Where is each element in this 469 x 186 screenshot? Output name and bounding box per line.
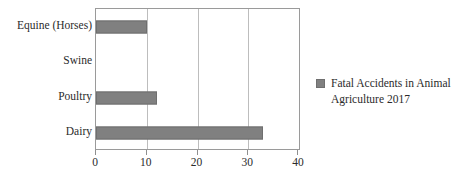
legend-entry-label: Fatal Accidents in Animal Agriculture 20… — [331, 76, 451, 107]
legend-swatch-icon — [316, 79, 325, 88]
x-tick-label-10: 10 — [140, 157, 152, 169]
x-tick-label-30: 30 — [242, 157, 254, 169]
bar-row-swine — [96, 45, 299, 81]
legend-label-line-1: Fatal Accidents in Animal — [331, 77, 451, 89]
x-tick-mark-10 — [146, 150, 147, 155]
bar-row-dairy — [96, 116, 299, 152]
x-tick-mark-40 — [297, 150, 298, 155]
bar-row-poultry — [96, 80, 299, 116]
y-axis-label-poultry: Poultry — [0, 91, 92, 103]
y-axis-label-swine: Swine — [0, 55, 92, 67]
y-axis-label-dairy: Dairy — [0, 126, 92, 138]
y-axis-labels: Equine (Horses) Swine Poultry Dairy — [0, 8, 92, 150]
x-axis: 0 10 20 30 40 — [95, 150, 300, 176]
bar-poultry — [96, 91, 157, 104]
legend-label-line-2: Agriculture 2017 — [331, 93, 410, 105]
x-tick-label-0: 0 — [92, 157, 98, 169]
bar-row-equine — [96, 9, 299, 45]
x-tick-mark-0 — [95, 150, 96, 155]
x-tick-mark-20 — [197, 150, 198, 155]
y-axis-label-equine: Equine (Horses) — [0, 20, 92, 32]
bar-dairy — [96, 127, 263, 140]
plot-area — [95, 8, 300, 150]
bar-chart: Equine (Horses) Swine Poultry Dairy 0 10… — [0, 0, 469, 186]
legend: Fatal Accidents in Animal Agriculture 20… — [316, 76, 464, 107]
x-tick-label-40: 40 — [292, 157, 304, 169]
x-tick-mark-30 — [247, 150, 248, 155]
bar-equine — [96, 20, 147, 33]
x-tick-label-20: 20 — [191, 157, 203, 169]
